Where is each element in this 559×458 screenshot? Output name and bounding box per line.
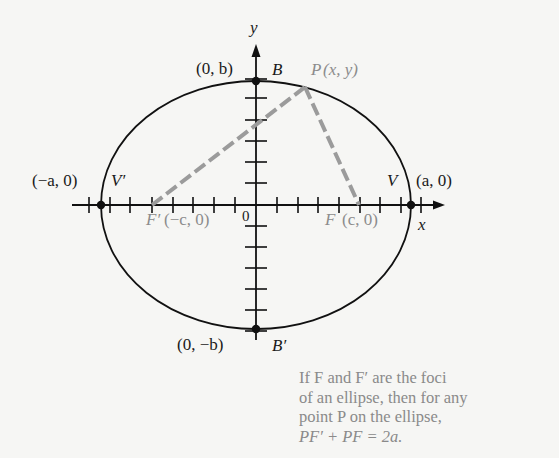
label-p: P xyxy=(311,61,321,78)
y-axis-arrow-icon xyxy=(252,44,261,57)
label-f-prime: F′ xyxy=(146,211,160,228)
point-v-prime xyxy=(97,201,105,209)
label-f-coord: (c, 0) xyxy=(342,211,378,228)
label-p-coord: (x, y) xyxy=(323,61,358,78)
label-b-coord: (0, b) xyxy=(196,60,233,77)
caption-line-2: of an ellipse, then for any xyxy=(299,388,549,408)
label-f-prime-coord: (−c, 0) xyxy=(164,211,209,228)
label-f: F xyxy=(325,211,335,228)
ellipse-diagram: y x 0 (0, b) B P (x, y) (−a, 0) V′ V (a,… xyxy=(0,0,559,458)
label-b: B xyxy=(272,61,282,78)
label-b-prime-coord: (0, −b) xyxy=(177,336,223,353)
x-axis-label: x xyxy=(418,216,426,233)
y-axis-label: y xyxy=(250,19,258,36)
point-b xyxy=(252,77,260,85)
segment-pf-prime xyxy=(152,87,305,205)
caption-line-4: PF′ + PF = 2a. xyxy=(299,427,549,447)
label-v-prime: V′ xyxy=(111,172,125,189)
label-v: V xyxy=(387,172,397,189)
caption-line-3: point P on the ellipse, xyxy=(299,407,549,427)
label-b-prime: B′ xyxy=(272,337,286,354)
segment-pf xyxy=(305,87,359,205)
origin-label: 0 xyxy=(242,209,250,224)
label-v-prime-coord: (−a, 0) xyxy=(32,172,77,189)
point-v xyxy=(407,201,415,209)
caption-line-1: If F and F′ are the foci xyxy=(299,368,549,388)
label-v-coord: (a, 0) xyxy=(416,172,452,189)
x-axis-arrow-icon xyxy=(433,201,445,210)
point-b-prime xyxy=(252,325,260,333)
caption: If F and F′ are the foci of an ellipse, … xyxy=(299,368,549,446)
